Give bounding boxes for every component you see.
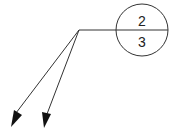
leader-line-2 (47, 30, 79, 114)
balloon-callout-diagram: 2 3 (0, 0, 177, 132)
balloon-top-value: 2 (138, 13, 146, 29)
leader-line-1 (16, 30, 79, 113)
arrowhead-2-icon (42, 112, 51, 128)
balloon-bottom-value: 3 (138, 34, 146, 50)
arrowhead-1-icon (11, 110, 22, 127)
